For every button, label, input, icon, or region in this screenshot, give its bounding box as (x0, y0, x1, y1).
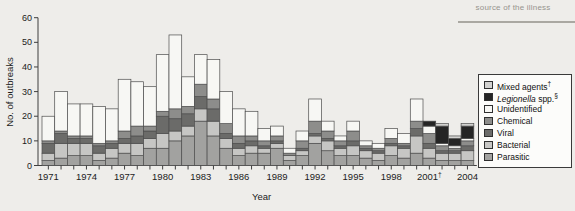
legend-swatch (484, 105, 493, 113)
bar-segment-2004-viral (461, 146, 474, 151)
bar-segment-2004-unidentified (461, 138, 474, 140)
bar-segment-2000-chemical (410, 121, 423, 128)
x-tick-label: 1989 (266, 171, 287, 182)
bar-segment-1976-chemical (106, 141, 119, 143)
bar-segment-1979-viral (144, 131, 157, 138)
y-axis-title: No. of outbreaks (4, 57, 15, 127)
bar-segment-1993-bacterial (321, 141, 334, 151)
bar-segment-1983-unidentified (194, 55, 207, 85)
bar-segment-1989-bacterial (271, 143, 284, 148)
bar-segment-1981-bacterial (169, 131, 182, 141)
y-tick-label: 20 (22, 111, 32, 121)
bar-segment-1977-parasitic (118, 153, 131, 165)
bar-segment-1978-bacterial (131, 143, 144, 155)
x-tick-label: 1998 (381, 171, 402, 182)
bar-segment-1978-viral (131, 136, 144, 143)
bar-segment-1986-bacterial (233, 148, 246, 155)
y-tick-label: 30 (22, 87, 32, 97)
bar-segment-1999-chemical (398, 143, 411, 145)
bar-segment-1974-parasitic (80, 156, 93, 166)
y-tick-label: 10 (22, 136, 32, 146)
bar-segment-2004-parasitic (461, 161, 474, 166)
bar-segment-1981-unidentified (169, 35, 182, 109)
legend-label: Unidentified (497, 105, 542, 114)
bar-segment-1985-unidentified (220, 92, 233, 124)
legend-swatch (484, 117, 493, 125)
bar-segment-1988-parasitic (258, 153, 271, 165)
bar-segment-2002-bacterial (436, 153, 449, 160)
bar-segment-1998-chemical (385, 138, 398, 143)
bar-segment-1995-parasitic (347, 156, 360, 166)
x-tick-label: 1980 (152, 171, 173, 182)
bar-segment-1987-parasitic (245, 153, 258, 165)
bar-segment-1986-viral (233, 143, 246, 148)
bar-segment-2004-mixed-agents (461, 124, 474, 126)
bar-segment-1991-unidentified (296, 131, 309, 141)
bar-segment-1997-parasitic (372, 161, 385, 166)
legend-item: Viral (484, 127, 566, 139)
bar-segment-1993-viral (321, 138, 334, 140)
bar-segment-2002-chemical (436, 146, 449, 151)
bar-segment-1998-parasitic (385, 156, 398, 166)
bar-segment-1974-bacterial (80, 143, 93, 155)
legend-item: Chemical (484, 115, 566, 127)
bar-segment-1982-parasitic (182, 136, 195, 166)
bar-segment-2002-mixed-agents (436, 124, 449, 126)
bar-segment-1995-chemical (347, 131, 360, 141)
bar-segment-1972-bacterial (55, 143, 68, 158)
legend-swatch (484, 81, 493, 89)
bar-segment-2001-viral (423, 143, 436, 148)
bar-segment-2000-viral (410, 129, 423, 136)
bar-segment-1997-chemical (372, 148, 385, 150)
bar-segment-1973-parasitic (67, 156, 80, 166)
bar-segment-1994-chemical (334, 141, 347, 146)
y-tick-label: 50 (22, 37, 32, 47)
bar-segment-1998-bacterial (385, 146, 398, 156)
bar-segment-1991-bacterial (296, 151, 309, 156)
bar-segment-1994-bacterial (334, 148, 347, 155)
bar-segment-1998-viral (385, 143, 398, 145)
bar-segment-1991-viral (296, 148, 309, 150)
bar-segment-1995-bacterial (347, 146, 360, 156)
bar-segment-1972-viral (55, 133, 68, 143)
bar-segment-1975-bacterial (93, 153, 106, 160)
bar-segment-1996-bacterial (360, 151, 373, 158)
bar-segment-1988-unidentified (258, 129, 271, 141)
bar-segment-1992-viral (309, 133, 322, 135)
legend-swatch (484, 141, 493, 149)
bar-segment-2000-bacterial (410, 136, 423, 153)
bar-segment-1974-chemical (80, 136, 93, 138)
bar-segment-2000-unidentified (410, 99, 423, 121)
bar-segment-1972-unidentified (55, 92, 68, 131)
bar-segment-1979-unidentified (144, 87, 157, 126)
bar-segment-1983-chemical (194, 84, 207, 96)
bar-segment-1990-bacterial (283, 156, 296, 161)
bar-segment-1992-parasitic (309, 143, 322, 165)
bar-segment-1977-chemical (118, 131, 131, 138)
bar-segment-1977-unidentified (118, 79, 131, 131)
bar-segment-1976-viral (106, 143, 119, 148)
bar-segment-1988-viral (258, 146, 271, 148)
bar-segment-1971-viral (42, 143, 55, 153)
bar-segment-1985-viral (220, 133, 233, 138)
bar-segment-1993-unidentified (321, 121, 334, 131)
legend-item: Bacterial (484, 139, 566, 151)
bar-segment-2004-bacterial (461, 151, 474, 161)
bar-segment-1977-bacterial (118, 143, 131, 153)
bar-segment-1999-parasitic (398, 158, 411, 165)
bar-segment-1989-unidentified (271, 126, 284, 136)
legend-swatch (484, 153, 493, 161)
x-tick-label: 2001† (417, 171, 442, 182)
bar-segment-1992-unidentified (309, 99, 322, 121)
bar-segment-2003-parasitic (448, 161, 461, 166)
chart-figure: source of the illness 010203040506019711… (0, 0, 575, 211)
bar-segment-2003-legionella-spp- (448, 138, 461, 145)
bar-segment-1990-chemical (283, 153, 296, 155)
bar-segment-1980-parasitic (156, 148, 169, 165)
bar-segment-1997-bacterial (372, 153, 385, 160)
bar-segment-1981-parasitic (169, 141, 182, 166)
legend-item: Legionella spp.§ (484, 91, 566, 103)
bar-segment-1986-unidentified (233, 109, 246, 136)
bar-segment-1975-parasitic (93, 161, 106, 166)
bar-segment-2004-legionella-spp- (461, 126, 474, 138)
